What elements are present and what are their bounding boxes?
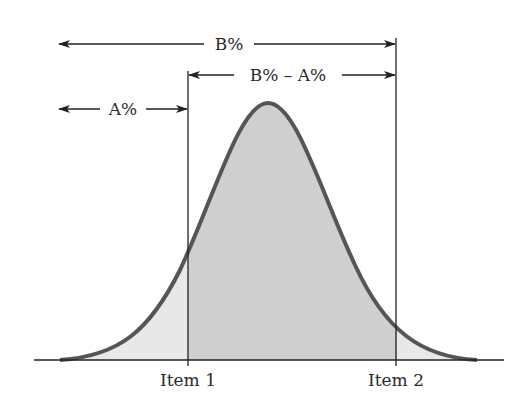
item2-label: Item 2 [368, 370, 424, 390]
central-area [60, 103, 477, 360]
difference-label: B% – A% [250, 65, 326, 85]
distribution-diagram: B% B% – A% A% Item 1 Item 2 [0, 0, 528, 408]
a-label: A% [108, 99, 137, 119]
b-label: B% [215, 34, 244, 54]
item1-label: Item 1 [160, 370, 216, 390]
